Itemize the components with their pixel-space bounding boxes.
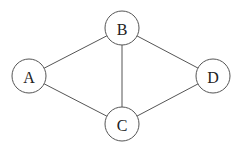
node-label: B: [117, 21, 128, 38]
node-d: D: [196, 59, 230, 93]
node-a: A: [12, 59, 46, 93]
edge-b-d: [137, 36, 198, 68]
graph-diagram: ABCD: [0, 0, 240, 144]
nodes-group: ABCD: [12, 11, 230, 141]
node-label: D: [207, 69, 219, 86]
node-c: C: [105, 107, 139, 141]
edge-a-b: [44, 36, 107, 68]
node-label: C: [117, 117, 128, 134]
edges-group: [44, 36, 198, 116]
edge-a-c: [44, 84, 107, 116]
edge-c-d: [137, 84, 198, 116]
node-label: A: [23, 69, 35, 86]
node-b: B: [105, 11, 139, 45]
